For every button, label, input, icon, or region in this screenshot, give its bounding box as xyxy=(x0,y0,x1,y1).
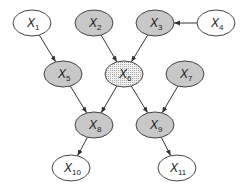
node-x7: X7 xyxy=(166,61,204,87)
node-x6: X6 xyxy=(105,61,143,87)
node-x4: X4 xyxy=(197,10,235,36)
node-x10: X10 xyxy=(52,155,90,181)
edges-layer xyxy=(39,23,197,156)
edge-x8-to-x10 xyxy=(78,137,88,156)
node-x2: X2 xyxy=(75,10,113,36)
edge-x7-to-x9 xyxy=(162,86,178,113)
node-x5: X5 xyxy=(44,61,82,87)
nodes-layer: X1X2X3X4X5X6X7X8X9X10X11 xyxy=(13,10,235,181)
bayesian-network-diagram: X1X2X3X4X5X6X7X8X9X10X11 xyxy=(0,0,247,186)
node-x9: X9 xyxy=(136,112,174,138)
edge-x5-to-x8 xyxy=(70,86,86,113)
edge-x2-to-x6 xyxy=(101,35,117,62)
edge-x9-to-x11 xyxy=(161,137,170,155)
node-x8: X8 xyxy=(75,112,113,138)
node-x11: X11 xyxy=(158,155,196,181)
edge-x3-to-x6 xyxy=(131,35,147,62)
node-x1: X1 xyxy=(13,10,51,36)
edge-x1-to-x5 xyxy=(39,35,55,62)
edge-x6-to-x8 xyxy=(101,86,117,113)
edge-x6-to-x9 xyxy=(131,86,147,113)
node-x3: X3 xyxy=(136,10,174,36)
